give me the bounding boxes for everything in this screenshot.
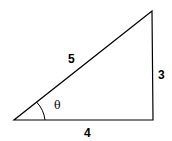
triangle-diagram: 5 3 4 θ	[0, 0, 172, 141]
angle-arc	[37, 102, 46, 120]
adjacent-side-label: 4	[84, 126, 91, 140]
hypotenuse-label: 5	[68, 52, 75, 66]
right-triangle	[14, 11, 153, 120]
opposite-side-label: 3	[158, 68, 165, 82]
angle-theta-label: θ	[54, 99, 61, 112]
